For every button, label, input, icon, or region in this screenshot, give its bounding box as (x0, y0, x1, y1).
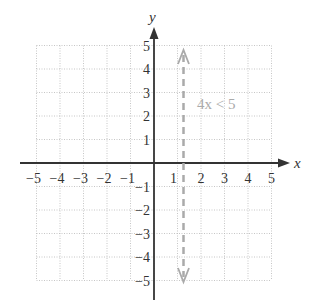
x-axis-arrow-icon (278, 159, 290, 168)
boundary-line (178, 50, 189, 282)
x-axis-label: x (293, 155, 301, 171)
x-tick-label: −1 (120, 171, 135, 186)
y-axis-label: y (147, 9, 156, 25)
inequality-annotation: 4x < 5 (197, 96, 235, 112)
x-tick-label: −4 (50, 171, 65, 186)
y-tick-label: −1 (135, 180, 150, 195)
axes: x y (20, 9, 301, 300)
x-tick-label: 4 (245, 171, 252, 186)
x-tick-label: 1 (170, 171, 177, 186)
y-axis-arrow-icon (150, 27, 159, 39)
y-tick-label: 5 (143, 39, 150, 54)
x-tick-label: 2 (198, 171, 205, 186)
x-tick-label: −5 (26, 171, 41, 186)
y-tick-label: 1 (143, 133, 150, 148)
y-tick-label: −3 (135, 227, 150, 242)
x-tick-label: −3 (73, 171, 88, 186)
y-tick-label: −2 (135, 203, 150, 218)
y-tick-label: 4 (143, 62, 150, 77)
y-tick-label: 2 (143, 109, 150, 124)
x-tick-label: 5 (268, 171, 275, 186)
y-tick-label: 3 (143, 86, 150, 101)
y-tick-label: −4 (135, 250, 150, 265)
x-tick-label: −2 (97, 171, 112, 186)
y-tick-label: −5 (135, 274, 150, 289)
coordinate-plane: x y −5−4−3−2−11234554321−1−2−3−4−5 4x < … (0, 0, 313, 305)
x-tick-label: 3 (221, 171, 228, 186)
